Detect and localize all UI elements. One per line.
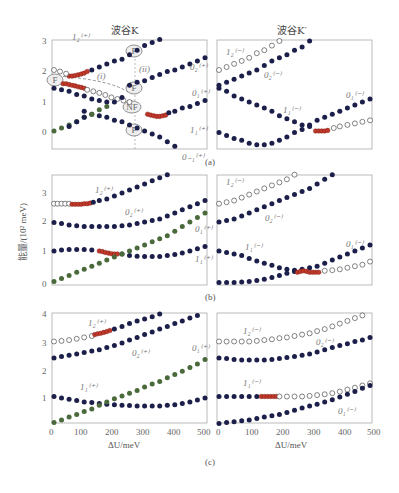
data-point bbox=[67, 338, 72, 343]
data-point bbox=[150, 254, 155, 259]
data-point bbox=[352, 103, 357, 108]
data-point bbox=[239, 253, 244, 258]
data-point bbox=[104, 345, 109, 350]
data-point bbox=[292, 192, 297, 197]
data-point bbox=[172, 210, 177, 215]
data-point bbox=[127, 122, 132, 127]
data-point bbox=[67, 397, 72, 402]
curve-label: 1₂⁽⁺⁾ bbox=[88, 318, 106, 328]
data-point bbox=[254, 51, 259, 56]
data-point bbox=[292, 354, 297, 359]
data-point bbox=[360, 100, 365, 105]
data-point bbox=[112, 194, 117, 199]
data-point bbox=[247, 339, 252, 344]
data-point bbox=[120, 119, 125, 124]
data-point bbox=[150, 239, 155, 244]
data-point bbox=[120, 324, 125, 329]
data-point bbox=[232, 394, 237, 399]
data-point bbox=[331, 126, 336, 131]
data-point bbox=[97, 198, 102, 203]
data-point bbox=[284, 135, 289, 140]
data-point bbox=[352, 339, 357, 344]
svg-text:500: 500 bbox=[367, 427, 381, 437]
data-point bbox=[217, 339, 222, 344]
svg-text:2: 2 bbox=[42, 66, 47, 76]
data-point bbox=[120, 95, 125, 100]
data-point bbox=[67, 353, 72, 358]
data-point bbox=[368, 335, 373, 340]
data-point bbox=[85, 87, 90, 92]
data-point bbox=[232, 77, 237, 82]
data-point bbox=[97, 261, 102, 266]
data-point bbox=[224, 339, 229, 344]
data-point bbox=[127, 249, 132, 254]
svg-text:2: 2 bbox=[42, 366, 47, 376]
data-point bbox=[322, 327, 327, 332]
data-point bbox=[284, 335, 289, 340]
data-point bbox=[103, 93, 108, 98]
data-point bbox=[150, 382, 155, 387]
data-point bbox=[345, 387, 350, 392]
data-point bbox=[315, 402, 320, 407]
data-point bbox=[300, 127, 305, 132]
data-point bbox=[307, 186, 312, 191]
data-point bbox=[157, 379, 162, 384]
data-point bbox=[112, 118, 117, 123]
curve-label: 1₁⁽⁺⁾ bbox=[190, 125, 208, 135]
data-point bbox=[135, 245, 140, 250]
data-point bbox=[82, 350, 87, 355]
data-point bbox=[127, 321, 132, 326]
data-point bbox=[74, 351, 79, 356]
y-ticks-c: 43 21 bbox=[42, 309, 47, 403]
data-point bbox=[360, 262, 365, 267]
data-point bbox=[82, 247, 87, 252]
data-point bbox=[172, 68, 177, 73]
data-point bbox=[67, 223, 72, 228]
data-point bbox=[187, 220, 192, 225]
data-point bbox=[269, 43, 274, 48]
data-point bbox=[360, 338, 365, 343]
data-point bbox=[262, 106, 267, 111]
data-point bbox=[120, 340, 125, 345]
svg-text:1: 1 bbox=[42, 246, 47, 256]
data-point bbox=[74, 223, 79, 228]
data-point bbox=[142, 43, 147, 48]
data-point bbox=[217, 394, 222, 399]
data-point bbox=[135, 318, 140, 323]
x-ticks-c-left: 0100 200300 400500 bbox=[49, 427, 211, 437]
data-point bbox=[277, 394, 282, 399]
data-point bbox=[239, 357, 244, 362]
data-point bbox=[315, 118, 320, 123]
data-point bbox=[217, 68, 222, 73]
data-point bbox=[157, 175, 162, 180]
data-point bbox=[232, 198, 237, 203]
data-point bbox=[165, 233, 170, 238]
data-point bbox=[195, 201, 200, 206]
data-point bbox=[315, 181, 320, 186]
data-point bbox=[142, 129, 147, 134]
curve-label: 0₁⁽⁺⁾ bbox=[195, 224, 213, 234]
data-point bbox=[352, 121, 357, 126]
data-point bbox=[120, 252, 125, 257]
data-point bbox=[187, 249, 192, 254]
data-point bbox=[180, 251, 185, 256]
data-point bbox=[300, 189, 305, 194]
data-point bbox=[52, 339, 57, 344]
data-point bbox=[59, 417, 64, 422]
data-point bbox=[172, 109, 177, 114]
data-point bbox=[52, 129, 57, 134]
caption-c: (c) bbox=[205, 457, 215, 467]
data-point bbox=[91, 200, 96, 205]
data-point bbox=[307, 124, 312, 129]
data-point bbox=[135, 335, 140, 340]
data-point bbox=[112, 343, 117, 348]
svg-text:2: 2 bbox=[42, 216, 47, 226]
data-point bbox=[135, 388, 140, 393]
data-point bbox=[59, 338, 64, 343]
data-point bbox=[59, 354, 64, 359]
data-point bbox=[217, 280, 222, 285]
data-point bbox=[104, 115, 109, 120]
data-point bbox=[104, 61, 109, 66]
curve-label: 0₂⁽⁺⁾ bbox=[132, 348, 150, 358]
data-point bbox=[352, 264, 357, 269]
